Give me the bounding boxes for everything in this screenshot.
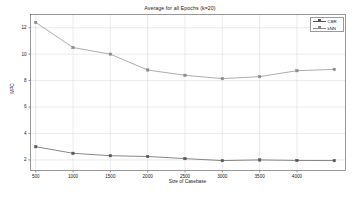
x-tick-label: 2000 — [135, 174, 161, 179]
data-point — [258, 159, 261, 162]
data-point — [258, 75, 261, 78]
y-tick-label: 8 — [9, 78, 27, 83]
data-point — [296, 159, 299, 162]
y-tick-label: 4 — [9, 131, 27, 136]
legend-label: CBR — [326, 19, 337, 24]
x-axis-title: Size of Casebase — [30, 179, 345, 184]
plot-area — [0, 0, 360, 200]
chart-legend: CBRkNN — [310, 17, 344, 32]
data-point — [146, 69, 149, 72]
data-point — [72, 152, 75, 155]
data-point — [146, 155, 149, 158]
data-point — [333, 68, 336, 71]
y-tick-label: 12 — [9, 25, 27, 30]
legend-item-cbr[interactable]: CBR — [311, 18, 343, 25]
x-tick-label: 2500 — [172, 174, 198, 179]
data-point — [221, 77, 224, 80]
data-point — [184, 157, 187, 160]
data-point — [296, 69, 299, 72]
data-point — [109, 53, 112, 56]
legend-label: kNN — [326, 26, 336, 31]
data-point — [109, 154, 112, 157]
x-tick-label: 1000 — [60, 174, 86, 179]
y-tick-label: 6 — [9, 104, 27, 109]
legend-marker-icon — [313, 25, 326, 32]
y-axis-title: MPC — [10, 69, 15, 109]
data-point — [184, 74, 187, 77]
data-point — [34, 145, 37, 148]
y-tick-label: 2 — [9, 157, 27, 162]
chart-figure: Average for all Epochs (k=20) MPC Size o… — [0, 0, 360, 200]
data-point — [72, 46, 75, 49]
y-tick-label: 10 — [9, 52, 27, 57]
plot-background — [31, 15, 346, 171]
chart-title: Average for all Epochs (k=20) — [0, 5, 360, 12]
x-tick-label: 3500 — [247, 174, 273, 179]
data-point — [333, 159, 336, 162]
x-tick-label: 3000 — [209, 174, 235, 179]
legend-item-knn[interactable]: kNN — [311, 25, 343, 32]
x-tick-label: 1500 — [97, 174, 123, 179]
data-point — [221, 159, 224, 162]
data-point — [34, 21, 37, 24]
legend-marker-icon — [313, 18, 326, 25]
x-tick-label: 500 — [23, 174, 49, 179]
x-tick-label: 4000 — [284, 174, 310, 179]
